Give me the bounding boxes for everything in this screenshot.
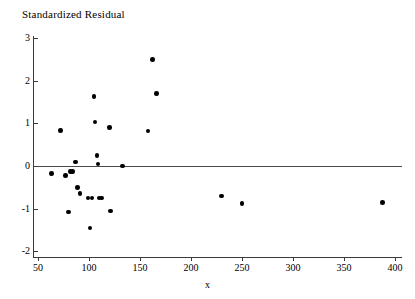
x-tick-mark: [140, 257, 141, 261]
data-point: [73, 160, 78, 165]
data-point: [108, 209, 113, 214]
data-point: [58, 128, 63, 133]
y-tick-mark: [34, 81, 38, 82]
data-point: [95, 153, 100, 158]
plot-area: 3210-1-2 50100150200250300350400: [0, 0, 415, 299]
data-point: [92, 94, 97, 99]
data-point: [150, 57, 155, 62]
y-tick-label: 1: [6, 118, 30, 128]
data-point: [75, 185, 80, 190]
x-tick-mark: [38, 257, 39, 261]
data-point: [99, 196, 104, 201]
y-tick-label: -1: [6, 204, 30, 214]
x-tick-label: 200: [171, 262, 211, 273]
data-point: [70, 169, 75, 174]
x-tick-label: 150: [120, 262, 160, 273]
data-point: [88, 226, 93, 231]
y-tick-label: 0: [6, 161, 30, 171]
x-tick-mark: [395, 257, 396, 261]
y-tick-mark: [34, 123, 38, 124]
data-point: [107, 125, 112, 130]
y-tick-label: -2: [6, 246, 30, 256]
x-tick-label: 400: [375, 262, 415, 273]
x-tick-label: 50: [18, 262, 58, 273]
y-tick-mark: [34, 209, 38, 210]
y-tick-label: 3: [6, 33, 30, 43]
y-tick-mark: [34, 166, 38, 167]
x-tick-mark: [89, 257, 90, 261]
data-point: [154, 91, 159, 96]
y-tick-mark: [34, 251, 38, 252]
data-point: [66, 210, 71, 215]
x-tick-mark: [344, 257, 345, 261]
x-axis-label: x: [0, 279, 415, 290]
y-axis-line: [33, 36, 34, 258]
data-point: [146, 129, 151, 134]
x-tick-mark: [191, 257, 192, 261]
data-point: [120, 164, 125, 169]
data-point: [49, 171, 54, 176]
data-point: [219, 194, 224, 199]
data-point: [93, 120, 98, 125]
data-point: [63, 173, 68, 178]
data-point: [78, 191, 83, 196]
zero-reference-line: [33, 166, 402, 167]
x-tick-label: 250: [222, 262, 262, 273]
x-tick-mark: [242, 257, 243, 261]
y-tick-label: 2: [6, 76, 30, 86]
x-tick-label: 350: [324, 262, 364, 273]
data-point: [90, 196, 95, 201]
y-tick-mark: [34, 38, 38, 39]
x-tick-label: 300: [273, 262, 313, 273]
scatter-plot-figure: Standardized Residual 3210-1-2 501001502…: [0, 0, 415, 299]
data-point: [380, 200, 385, 205]
x-tick-mark: [293, 257, 294, 261]
x-tick-label: 100: [69, 262, 109, 273]
data-point: [240, 201, 245, 206]
